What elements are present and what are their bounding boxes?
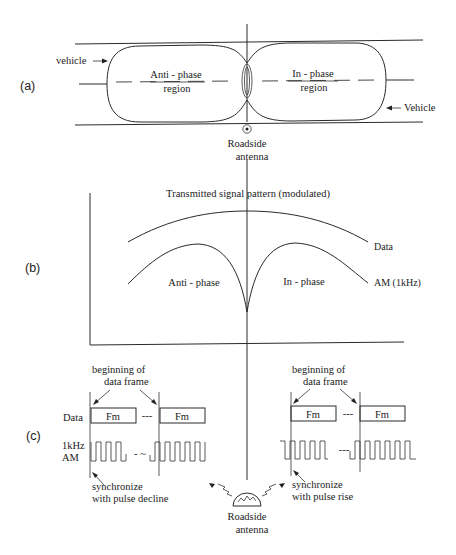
right-frame-box-1-label: Fm (306, 409, 320, 420)
left-timing: beginning of data frame Data Fm --- Fm 1… (62, 364, 205, 504)
right-am-pulse-train-2 (350, 441, 416, 459)
panel-b: (b) Transmitted signal pattern (modulate… (25, 188, 421, 345)
left-frame-box-1-label: Fm (106, 411, 120, 422)
left-frame-label-line2: data frame (104, 376, 149, 387)
antenna-bottom-label-line1: Roadside (227, 511, 266, 522)
in-phase-label-b: In - phase (283, 276, 325, 287)
arrow-head-icon (209, 483, 215, 488)
right-ellipsis: --- (343, 408, 354, 419)
radiation-left-icon (218, 484, 232, 496)
am-curve-label: AM (1kHz) (374, 277, 421, 289)
right-wave-ellipsis: --- (339, 444, 350, 455)
road-top-edge (75, 40, 423, 44)
left-wave-ellipsis: - ~ (134, 448, 146, 459)
vehicle-left-label: vehicle (56, 55, 87, 66)
anti-phase-label: Anti - phase (150, 69, 202, 80)
data-curve-label: Data (374, 241, 393, 252)
right-am-pulse-train-1 (280, 441, 328, 459)
chart-title: Transmitted signal pattern (modulated) (166, 188, 330, 200)
left-ellipsis: --- (142, 410, 153, 421)
panel-a-label: (a) (20, 79, 35, 93)
left-am-label-line2: AM (62, 452, 80, 463)
antenna-symbol-dot (246, 128, 249, 131)
right-frame-box-2-label: Fm (375, 409, 389, 420)
right-frame-label-line1: beginning of (292, 364, 346, 375)
left-frame-label-line1: beginning of (92, 364, 146, 375)
panel-c-label: (c) (26, 429, 41, 443)
left-data-label: Data (63, 412, 83, 423)
panel-b-label: (b) (25, 261, 40, 275)
radiation-right-icon (262, 484, 276, 496)
left-am-label-line1: 1kHz (62, 440, 85, 451)
panel-a: (a) Anti - phase region In - phase regio… (20, 40, 436, 162)
left-am-pulse-train-2 (150, 442, 205, 461)
roadside-antenna-bottom: Roadside antenna (209, 483, 285, 535)
panel-c: (c) beginning of data frame Data Fm --- … (26, 364, 416, 535)
left-sync-label-line1: synchronize (92, 481, 143, 492)
right-frame-label-line2: data frame (303, 376, 348, 387)
right-sync-label-line1: synchronize (292, 479, 343, 490)
in-phase-label: In - phase (292, 68, 334, 79)
diagram-canvas: (a) Anti - phase region In - phase regio… (0, 0, 456, 555)
arrow-head-icon (386, 106, 392, 111)
antenna-dome-pattern (238, 496, 256, 502)
antenna-bottom-label-line2: antenna (236, 524, 269, 535)
road-bottom-edge (75, 122, 423, 125)
anti-phase-label-b: Anti - phase (168, 277, 220, 288)
antenna-label-line2: antenna (236, 151, 269, 162)
data-curve (128, 211, 368, 242)
left-sync-label-line2: with pulse decline (92, 493, 169, 504)
antenna-dome-icon (233, 493, 261, 506)
arrow-head-icon (102, 59, 108, 64)
vehicle-right-label: Vehicle (404, 102, 436, 113)
right-timing: beginning of data frame Fm --- Fm --- sy… (280, 364, 416, 502)
anti-phase-region-label: region (164, 83, 192, 94)
in-phase-region-label: region (301, 82, 329, 93)
antenna-label-line1: Roadside (227, 138, 266, 149)
left-am-pulse-train-1 (91, 442, 126, 461)
am-curve (128, 243, 368, 312)
right-sync-label-line2: with pulse rise (292, 491, 354, 502)
left-frame-box-2-label: Fm (175, 411, 189, 422)
arrow-head-icon (279, 483, 285, 488)
